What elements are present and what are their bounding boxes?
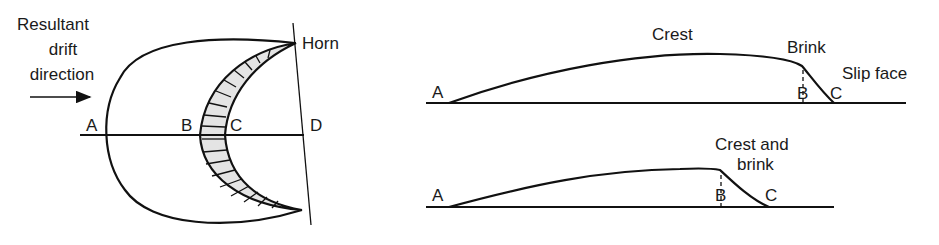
bottom-point-a-label: A [432, 186, 444, 205]
plan-view: Resultant drift direction [17, 15, 339, 225]
drift-label-line-2: drift [49, 40, 78, 59]
profile-bottom: Crest and brink A B C [426, 135, 834, 207]
bottom-point-b-label: B [715, 186, 726, 205]
crest-and-brink-label-line-2: brink [737, 155, 774, 174]
horn-label: Horn [302, 34, 339, 53]
crest-and-brink-label-line-1: Crest and [715, 135, 789, 154]
top-point-a-label: A [432, 83, 444, 102]
barchan-dune-diagram: Resultant drift direction [0, 0, 939, 245]
horn-line [293, 23, 311, 225]
top-point-c-label: C [830, 84, 842, 103]
brink-label: Brink [787, 38, 826, 57]
drift-label-line-3: direction [30, 65, 94, 84]
profile-top: Crest Brink Slip face A B C [426, 25, 907, 103]
point-a-label: A [86, 116, 98, 135]
point-c-label: C [230, 116, 242, 135]
point-d-label: D [310, 116, 322, 135]
drift-label-line-1: Resultant [17, 15, 89, 34]
bottom-point-c-label: C [765, 186, 777, 205]
slip-face-label: Slip face [842, 64, 907, 83]
top-point-b-label: B [797, 84, 808, 103]
dune-profile-top [449, 54, 834, 103]
crest-label: Crest [652, 25, 693, 44]
point-b-label: B [181, 116, 192, 135]
